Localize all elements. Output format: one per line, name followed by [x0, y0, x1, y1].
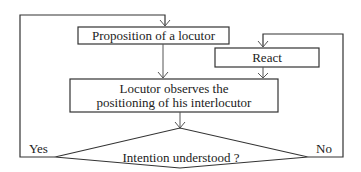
flowchart: Proposition of a locutor React Locutor o… [0, 0, 361, 172]
observe-label-line1: Locutor observes the [119, 81, 228, 96]
proposition-label: Proposition of a locutor [92, 28, 216, 43]
no-label: No [316, 141, 332, 156]
react-label: React [252, 50, 282, 65]
observe-label-line2: positioning of his interlocutor [97, 95, 253, 110]
decision-label: Intention understood ? [123, 150, 240, 165]
yes-label: Yes [29, 141, 48, 156]
